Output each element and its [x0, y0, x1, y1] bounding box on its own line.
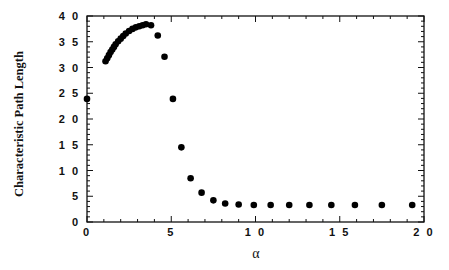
data-point	[210, 197, 217, 204]
y-tick-label: 3 0	[59, 62, 80, 74]
y-tick-label: 1 5	[59, 139, 80, 151]
data-point	[161, 53, 168, 60]
y-tick-label: 0	[72, 216, 80, 228]
x-tick-label: 1 5	[329, 226, 350, 238]
y-tick-label: 2 5	[59, 87, 80, 99]
axis-ticks	[87, 16, 424, 222]
data-point	[178, 144, 185, 151]
y-tick-label: 1 0	[59, 165, 80, 177]
data-point	[286, 202, 293, 209]
data-point	[352, 202, 359, 209]
data-point	[84, 96, 91, 103]
data-point	[379, 202, 386, 209]
data-point	[306, 202, 313, 209]
data-point	[235, 201, 242, 208]
x-tick-label: 5	[167, 226, 175, 238]
data-point	[187, 175, 194, 182]
data-points	[84, 21, 416, 208]
data-point	[409, 202, 416, 209]
y-axis-label: Characteristic Path Length	[12, 51, 27, 197]
x-tick-label: 2 0	[413, 226, 434, 238]
data-point	[222, 200, 229, 207]
y-tick-label: 4 0	[59, 10, 80, 22]
plot-frame	[87, 16, 424, 222]
data-point	[170, 96, 177, 103]
y-tick-label: 3 5	[59, 36, 80, 48]
data-point	[328, 202, 335, 209]
data-point	[198, 189, 205, 196]
data-point	[148, 22, 155, 29]
data-point	[251, 202, 258, 209]
x-tick-label: 1 0	[245, 226, 266, 238]
scatter-chart: 051 01 52 0051 01 52 02 53 03 54 0	[0, 0, 449, 270]
x-axis-label: α	[252, 246, 259, 262]
data-point	[267, 202, 274, 209]
data-point	[154, 32, 161, 39]
y-tick-label: 5	[72, 190, 80, 202]
y-tick-label: 2 0	[59, 113, 80, 125]
x-tick-label: 0	[83, 226, 91, 238]
